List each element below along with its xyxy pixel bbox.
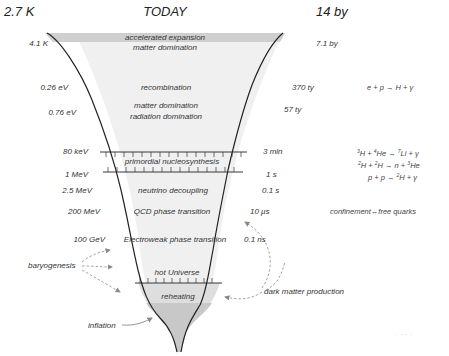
right-axis-label: 57 ty xyxy=(284,106,301,114)
recombination-reaction: e + p → H + γ xyxy=(367,84,413,92)
inflation-arrow xyxy=(122,318,152,325)
left-axis-label: 1 MeV xyxy=(65,171,88,179)
epoch-label: reheating xyxy=(161,293,194,301)
right-axis-label: 3 min xyxy=(263,148,283,156)
right-axis-label: 1 s xyxy=(266,171,277,179)
inflation-label: inflation xyxy=(88,322,116,330)
left-axis-label: 2.5 MeV xyxy=(62,187,92,195)
qcd-reaction: confinement↔free quarks xyxy=(330,208,416,216)
left-axis-label: 80 keV xyxy=(63,148,88,156)
bbn-reaction-2: 2H + 2H → n + 3He xyxy=(358,161,420,170)
epoch-label: hot Universe xyxy=(155,269,200,277)
right-axis-label: 370 ty xyxy=(292,84,314,92)
bbn-reaction-3: p + p → 2H + γ xyxy=(368,173,417,182)
epoch-label: QCD phase transition xyxy=(134,208,210,216)
epoch-label: matter domination xyxy=(134,102,198,110)
bbn-reaction-1: 3H + 4He → 7Li + γ xyxy=(357,149,419,158)
today-title: TODAY xyxy=(143,5,187,18)
dark-matter-label: dark matter production xyxy=(264,288,344,296)
present-temperature: 2.7 K xyxy=(4,5,34,18)
inflation-band xyxy=(146,303,212,352)
left-axis-label: 0.76 eV xyxy=(48,109,76,117)
epoch-label: radiation domination xyxy=(130,113,202,121)
right-axis-label: 0.1 s xyxy=(262,187,279,195)
epoch-label: matter domination xyxy=(133,44,197,52)
left-axis-label: 100 GeV xyxy=(73,236,105,244)
left-axis-label: 0.26 eV xyxy=(40,84,68,92)
epoch-label: primordial nucleosynthesis xyxy=(125,158,219,166)
left-axis-label: 200 MeV xyxy=(68,208,100,216)
present-age: 14 by xyxy=(316,5,348,18)
epoch-label: Electroweak phase transition xyxy=(124,236,226,244)
right-axis-label: 0.1 ns xyxy=(244,236,266,244)
watermark: · · · · xyxy=(395,331,412,339)
right-axis-label: 7.1 by xyxy=(316,40,338,48)
epoch-label: recombination xyxy=(141,84,191,92)
epoch-label: accelerated expansion xyxy=(125,34,205,42)
baryogenesis-arrows xyxy=(82,250,120,292)
epoch-label: neutrino decoupling xyxy=(138,187,208,195)
right-axis-label: 10 μs xyxy=(250,208,270,216)
left-axis-label: 4.1 K xyxy=(29,40,48,48)
baryogenesis-label: baryogenesis xyxy=(28,262,76,270)
